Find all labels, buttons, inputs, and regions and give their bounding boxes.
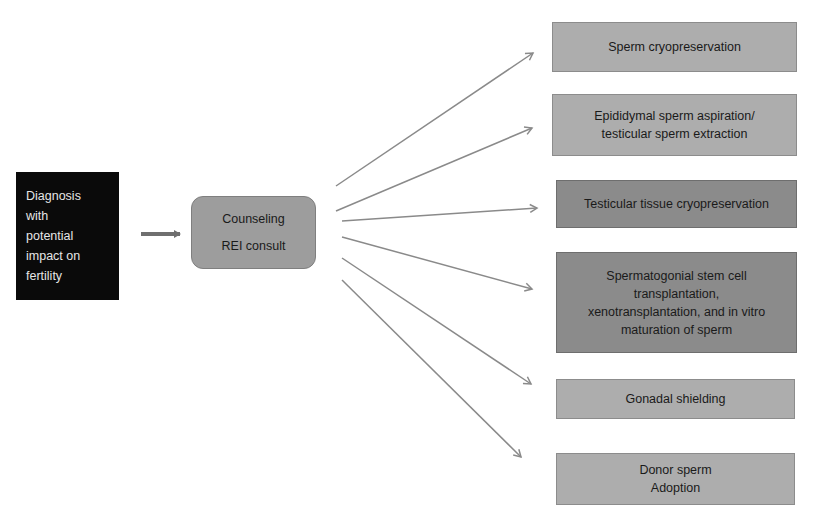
arrow-to-option-2 (336, 128, 532, 211)
option-text: Testicular tissue cryopreservation (584, 195, 769, 213)
option-text: Epididymal sperm aspiration/ (594, 107, 755, 125)
arrow-to-option-1 (336, 53, 533, 186)
arrow-to-option-6 (342, 280, 521, 457)
counseling-label: Counseling (222, 210, 285, 228)
option-stem-cell-transplantation: Spermatogonial stem cell transplantation… (556, 252, 797, 353)
option-text: Gonadal shielding (625, 390, 725, 408)
option-testicular-tissue-cryopreservation: Testicular tissue cryopreservation (556, 180, 797, 228)
arrow-to-option-5 (342, 258, 531, 384)
arrow-to-option-3 (342, 208, 537, 221)
option-text: xenotransplantation, and in vitro (588, 303, 765, 321)
counseling-box: Counseling REI consult (191, 196, 316, 269)
option-text: maturation of sperm (621, 321, 732, 339)
option-text: Adoption (651, 479, 700, 497)
option-sperm-aspiration-extraction: Epididymal sperm aspiration/ testicular … (552, 94, 797, 156)
option-text: Donor sperm (639, 461, 711, 479)
option-text: Spermatogonial stem cell (606, 267, 746, 285)
option-text: Sperm cryopreservation (608, 38, 741, 56)
option-donor-sperm-adoption: Donor sperm Adoption (556, 453, 795, 505)
arrow-to-option-4 (342, 237, 532, 289)
rei-consult-label: REI consult (222, 237, 286, 255)
option-text: testicular sperm extraction (602, 125, 748, 143)
option-gonadal-shielding: Gonadal shielding (556, 379, 795, 419)
option-sperm-cryopreservation: Sperm cryopreservation (552, 22, 797, 72)
option-text: transplantation, (634, 285, 719, 303)
